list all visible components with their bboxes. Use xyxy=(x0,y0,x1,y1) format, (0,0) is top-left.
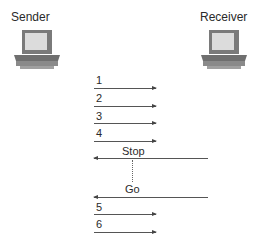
arrow-right xyxy=(94,232,156,233)
arrow-right xyxy=(94,141,156,142)
computer-icon xyxy=(199,28,249,70)
message-label: 5 xyxy=(96,201,102,213)
sender-label: Sender xyxy=(11,10,50,24)
waiting-dotted-line xyxy=(132,160,133,182)
message-label: 3 xyxy=(96,110,102,122)
message-label: Go xyxy=(125,183,140,195)
arrow-right xyxy=(94,123,156,124)
arrow-right xyxy=(94,106,156,107)
message-label: 6 xyxy=(96,218,102,230)
arrow-right xyxy=(94,214,156,215)
message-label: Stop xyxy=(122,145,145,157)
message-label: 1 xyxy=(96,74,102,86)
message-label: 4 xyxy=(96,127,102,139)
arrow-left xyxy=(94,197,208,198)
message-label: 2 xyxy=(96,92,102,104)
arrow-left xyxy=(94,158,208,159)
receiver-label: Receiver xyxy=(200,10,247,24)
computer-icon xyxy=(12,28,62,70)
arrow-right xyxy=(94,88,156,89)
